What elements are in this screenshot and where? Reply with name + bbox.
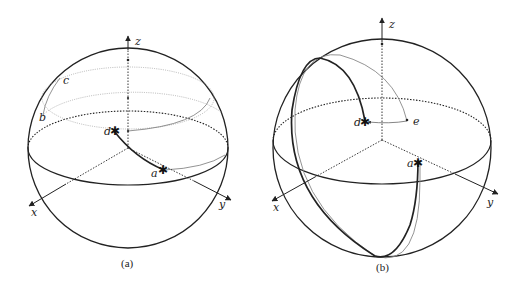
y-axis-label: y [218, 198, 226, 211]
bold-path-d [291, 58, 375, 256]
sphere-outline [273, 39, 491, 257]
panel-b: ✱ ✱ z x y d e a (b) [272, 18, 498, 274]
x-axis-label: x [31, 206, 38, 219]
point-e-label: e [413, 115, 420, 128]
figure-canvas: ✱ ✱ z x y c b d a (a) ✱ ✱ z [0, 0, 517, 286]
y-axis-label: y [486, 196, 494, 209]
point-b-label: b [39, 111, 46, 124]
panel-a: ✱ ✱ z x y c b d a (a) [28, 35, 231, 270]
equator-front [28, 148, 228, 185]
path-lower-front [164, 155, 225, 170]
thin-great-circle [295, 55, 420, 258]
star-marker-d: ✱ [360, 115, 370, 129]
star-marker-a: ✱ [158, 163, 168, 177]
y-axis[interactable] [455, 174, 498, 194]
star-marker-d: ✱ [110, 124, 120, 138]
point-d-label: d [354, 116, 361, 129]
geodesic-d-to-a [114, 131, 164, 170]
caption-a: (a) [121, 257, 134, 270]
point-a-label: a [407, 157, 414, 170]
caption-b: (b) [376, 261, 389, 274]
x-axis-label: x [273, 201, 280, 214]
equator-back [273, 98, 491, 141]
star-marker-a: ✱ [413, 156, 423, 170]
y-axis[interactable] [194, 181, 231, 200]
arc-e-to-d [368, 121, 407, 123]
point-d-label: d [104, 125, 111, 138]
z-axis-label: z [134, 35, 141, 48]
point-a-label: a [151, 167, 158, 180]
bold-path-a [375, 160, 418, 257]
x-axis[interactable] [29, 184, 66, 206]
x-axis-dashed [66, 148, 128, 184]
x-axis-dashed [315, 140, 382, 177]
z-axis-label: z [388, 18, 395, 31]
point-c-label: c [63, 74, 69, 87]
